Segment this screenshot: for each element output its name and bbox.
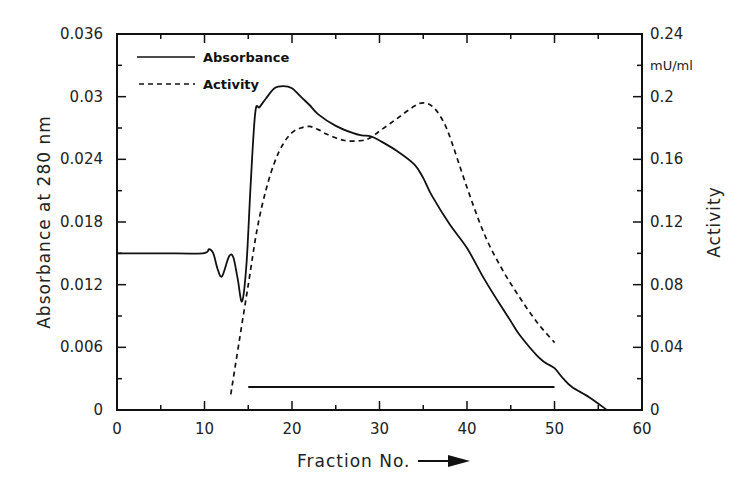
y-tick-label-left: 0.018 [60, 213, 103, 231]
y-tick-label-right: 0.2 [650, 88, 674, 106]
plot-area-border [117, 34, 642, 410]
y-tick-label-right: 0 [650, 401, 660, 419]
y-tick-label-right: 0.24 [650, 25, 683, 43]
x-axis-title-text: Fraction No. [297, 451, 411, 471]
legend-label-activity: Activity [203, 77, 260, 92]
x-tick-label: 10 [195, 420, 214, 438]
y-tick-label-right: 0.08 [650, 276, 683, 294]
y-tick-label-left: 0.012 [60, 276, 103, 294]
y-tick-label-right: 0.12 [650, 213, 683, 231]
x-tick-label: 50 [545, 420, 564, 438]
x-tick-label: 60 [632, 420, 651, 438]
series-absorbance [117, 86, 607, 410]
plot-frame [117, 34, 642, 410]
series-activity [231, 103, 555, 394]
y-tick-label-left: 0.036 [60, 25, 103, 43]
y-axis-title-right: Activity [704, 186, 724, 258]
y-axis-title-left: Absorbance at 280 nm [34, 115, 54, 329]
chart: 010203040506000.0060.0120.0180.0240.030.… [0, 0, 748, 484]
legend-label-absorbance: Absorbance [203, 50, 289, 65]
x-axis-title: Fraction No. [297, 451, 470, 471]
y-tick-label-right: 0.04 [650, 338, 683, 356]
y-tick-label-left: 0 [93, 401, 103, 419]
x-tick-label: 0 [112, 420, 122, 438]
axis-ticks: 010203040506000.0060.0120.0180.0240.030.… [60, 25, 683, 438]
y-tick-label-left: 0.006 [60, 338, 103, 356]
y-tick-label-left: 0.024 [60, 150, 103, 168]
y-tick-label-left: 0.03 [70, 88, 103, 106]
x-tick-label: 40 [457, 420, 476, 438]
arrow-right-icon [418, 455, 470, 467]
legend: Absorbance Activity [137, 50, 289, 92]
data-series [117, 86, 607, 410]
x-tick-label: 20 [282, 420, 301, 438]
y-axis-unit-right: mU/ml [650, 58, 693, 73]
x-tick-label: 30 [370, 420, 389, 438]
y-tick-label-right: 0.16 [650, 150, 683, 168]
